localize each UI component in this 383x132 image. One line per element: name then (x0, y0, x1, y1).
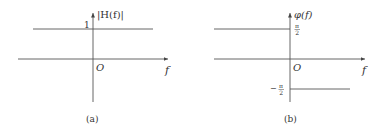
tick-neg-pi-half-den: 2 (279, 89, 283, 96)
y-label-a: |H(f)| (97, 9, 124, 21)
origin-b: O (293, 62, 301, 73)
caption-a: (a) (86, 114, 98, 124)
tick-pi-half-num: π (295, 22, 299, 29)
figure: |H(f)| 1 O f (a) φ(f) π 2 − π 2 O f (b) (0, 0, 383, 132)
caption-b: (b) (284, 114, 297, 124)
tick-neg-sign: − (270, 84, 277, 93)
tick-neg-pi-half-num: π (279, 82, 283, 89)
panel-a: |H(f)| 1 O f (a) (18, 9, 171, 124)
figure-svg: |H(f)| 1 O f (a) φ(f) π 2 − π 2 O f (b) (0, 0, 383, 132)
y-label-b: φ(f) (294, 9, 313, 20)
panel-b: φ(f) π 2 − π 2 O f (b) (214, 9, 368, 124)
x-label-b: f (361, 64, 368, 77)
tick-one: 1 (84, 20, 90, 30)
tick-pi-half-den: 2 (295, 29, 299, 36)
origin-a: O (96, 62, 104, 73)
x-label-a: f (164, 64, 171, 77)
